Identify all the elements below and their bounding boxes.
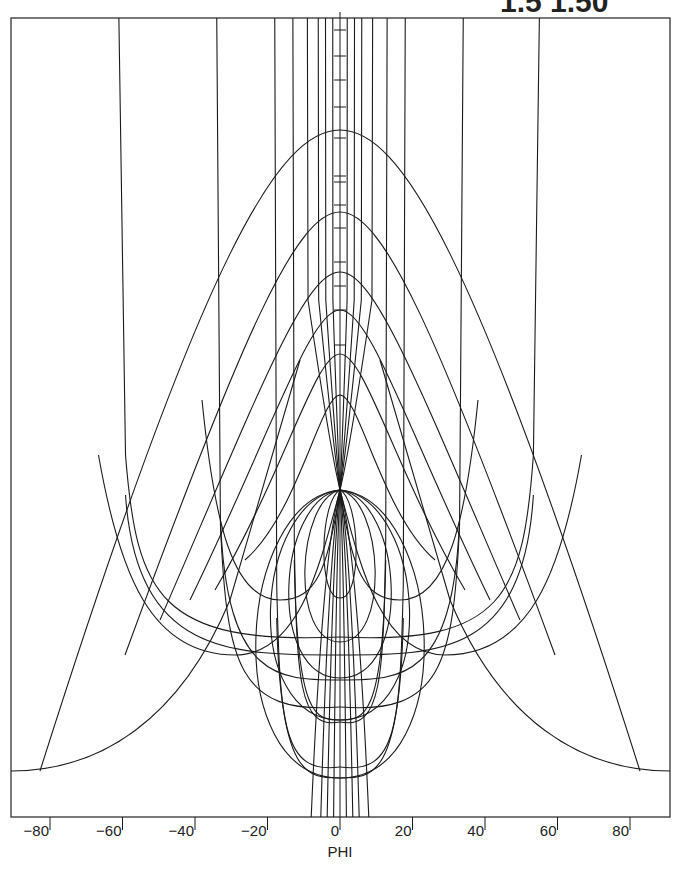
meridian-bottom: [126, 495, 534, 655]
meridian-curve: [340, 18, 373, 490]
x-tick-label: −40: [169, 822, 194, 839]
meridian-curve: [217, 18, 340, 708]
meridian-curve: [340, 18, 463, 708]
outer-wing-left: [11, 360, 300, 771]
title-fragment: 1.5 1.50: [500, 0, 608, 18]
x-tick-label: 0: [331, 822, 339, 839]
x-tick-label: 20: [395, 822, 412, 839]
plot: 1.5 1.50 −80−60−40−20020406080 PHI: [0, 0, 680, 870]
x-tick-label: −20: [241, 822, 266, 839]
x-tick-label: 60: [540, 822, 557, 839]
meridian-curve: [334, 490, 340, 817]
x-tick-label: −80: [24, 822, 49, 839]
outer-wing-right: [380, 360, 670, 771]
x-axis-ticks: −80−60−40−20020406080: [24, 817, 630, 839]
x-tick-label: 80: [612, 822, 629, 839]
meridian-curve: [307, 18, 340, 490]
x-axis-label: PHI: [327, 843, 352, 860]
x-tick-label: −60: [96, 822, 121, 839]
x-tick-label: 40: [467, 822, 484, 839]
